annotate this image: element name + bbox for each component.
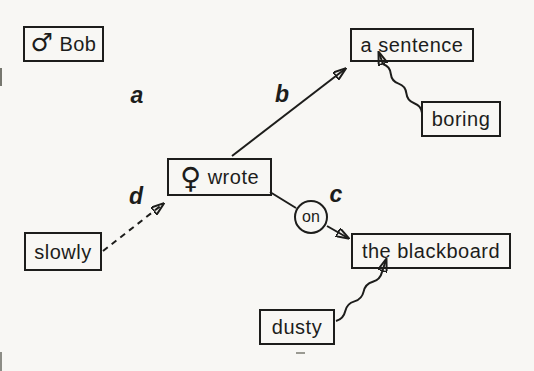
edge-wrote-on-line: [270, 192, 296, 208]
scan-artifact: [0, 352, 2, 371]
node-the-blackboard-label: the blackboard: [362, 241, 500, 261]
node-bob: ♂ Bob: [23, 26, 104, 62]
scan-artifact: [0, 68, 2, 86]
node-boring: boring: [421, 101, 501, 137]
edge-d-arrow: [103, 204, 163, 251]
node-dusty: dusty: [259, 309, 335, 345]
edge-dusty-blackboard-wavy-arrow: [336, 260, 386, 321]
relation-on-circle: on: [294, 200, 328, 234]
node-a-sentence: a sentence: [350, 28, 474, 62]
edge-on-blackboard-arrow: [327, 226, 348, 238]
node-wrote: ♀ wrote: [167, 158, 272, 196]
diagram-canvas: ♂ Bob a sentence boring ♀ wrote slowly t…: [0, 0, 534, 371]
node-wrote-label: wrote: [208, 167, 259, 187]
node-dusty-label: dusty: [272, 317, 322, 337]
edge-label-b: b: [275, 83, 289, 106]
node-a-sentence-label: a sentence: [361, 35, 464, 55]
scan-artifact: [296, 352, 305, 354]
node-the-blackboard: the blackboard: [351, 233, 511, 269]
node-bob-label: Bob: [59, 34, 96, 54]
edge-label-c: c: [330, 183, 343, 206]
edge-label-a: a: [131, 84, 144, 107]
node-slowly: slowly: [24, 232, 102, 271]
edge-label-d: d: [129, 185, 143, 208]
edge-boring-sentence-wavy-arrow: [379, 53, 422, 113]
node-slowly-label: slowly: [34, 242, 91, 262]
node-boring-label: boring: [432, 109, 491, 129]
relation-on-label: on: [302, 209, 320, 225]
